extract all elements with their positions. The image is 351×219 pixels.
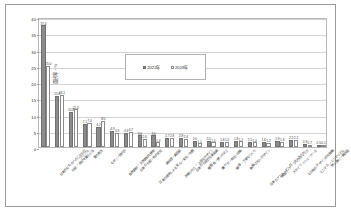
bar-2022: 4.9 [110,131,114,147]
bar-value-label: 11.6 [73,107,79,110]
bar-2019: 1.4 [156,142,160,147]
bar-2022: 0.9 [303,144,307,147]
bar-group: 4.44.7 [122,19,136,147]
legend-item-2019: 2019年 [171,64,189,70]
bar-2019: 25.0 [46,66,50,147]
bar-value-label: 1.5 [248,139,252,142]
bar-2019: 8.0 [101,121,105,147]
bar-2022: 10.8 [69,112,73,147]
bar-2019: 1.4 [211,142,215,147]
bar-group: 1.61.5 [218,19,232,147]
bar-value-label: 2.8 [170,135,174,138]
bar-value-label: 25.0 [45,63,51,66]
bar-group: 10.811.6 [67,19,81,147]
bar-value-label: 4.4 [124,130,128,133]
y-axis-tick-label: 10 [31,114,36,119]
bar-value-label: 4.3 [115,130,119,133]
bar-value-label: 1.5 [225,139,229,142]
bar-value-label: 1.6 [220,139,224,142]
bar-2022: 15.8 [55,96,59,147]
y-axis-tick-label: 15 [31,98,36,103]
bar-value-label: 16.1 [59,92,65,95]
bar-value-label: 1.6 [280,139,284,142]
bar-value-label: 8.0 [101,118,105,121]
bar-value-label: 0.9 [303,141,307,144]
legend-item-2022: 2022年 [143,64,161,70]
bar-value-label: 1.1 [197,141,201,144]
bar-value-label: 2.7 [165,135,169,138]
bar-group: 1.81.7 [232,19,246,147]
bar-group: 7.17.4 [80,19,94,147]
y-axis-tick-label: 25 [31,65,36,70]
bar-2022: 0.5 [317,145,321,147]
bar-2019: 1.5 [225,142,229,147]
bar-2022: 1.6 [220,142,224,147]
bar-group: 2.01.4 [204,19,218,147]
bar-value-label: 1.4 [211,140,215,143]
bar-value-label: 4.7 [129,129,133,132]
bar-value-label: 2.0 [193,138,197,141]
bar-group: 1.91.6 [273,19,287,147]
bar-group: 4.94.3 [108,19,122,147]
bar-2022: 4.4 [124,133,128,147]
bar-2019: 2.4 [184,139,188,147]
bar-group: 3.62.6 [135,19,149,147]
legend-label-2019: 2019年 [175,64,188,70]
chart-legend: 2022年 2019年 [125,54,206,80]
bar-value-label: 0.7 [308,142,312,145]
bar-2022: 2.0 [207,141,211,148]
bar-2019: 2.8 [170,138,174,147]
bar-2022: 1.5 [248,142,252,147]
bar-value-label: 6.2 [96,124,100,127]
bar-2019: 2.2 [294,140,298,147]
bar-value-label: 2.2 [294,137,298,140]
bar-2019: 11.6 [74,109,78,147]
bar-2019: 1.6 [280,142,284,147]
bar-2022: 3.6 [138,135,142,147]
bar-2022: 2.2 [289,140,293,147]
bar-value-label: 4.9 [110,128,114,131]
bar-value-label: 3.6 [138,133,142,136]
bar-2019: 7.4 [87,123,91,147]
bar-2022: 3.6 [151,135,155,147]
bar-group: 1.61.2 [259,19,273,147]
y-axis-tick-label: 20 [31,82,36,87]
bar-2022: 6.2 [96,127,100,147]
bar-value-label: 1.6 [262,139,266,142]
plot-area: 選択率・% 0510152025303540 37.425.015.816.11… [38,18,327,148]
legend-label-2022: 2022年 [147,64,160,70]
bar-2022: 2.8 [179,138,183,147]
bar-value-label: 1.9 [275,138,279,141]
legend-swatch-2019 [171,66,174,69]
bar-group: 6.28.0 [94,19,108,147]
x-axis-label: 個性的・アーティスティック [280,149,310,179]
bar-value-label: 0.5 [317,142,321,145]
bar-group: 2.82.4 [177,19,191,147]
bar-value-label: 2.4 [184,136,188,139]
bar-2019: 4.7 [129,132,133,147]
bar-value-label: 7.4 [87,120,91,123]
y-axis-tick-label: 35 [31,33,36,38]
bar-value-label: 2.6 [142,136,146,139]
bar-2019: 1.1 [198,143,202,147]
bar-value-label: 2.0 [206,138,210,141]
bar-group: 0.90.7 [300,19,314,147]
bar-value-label: 2.8 [179,135,183,138]
bar-2019: 0.1 [321,145,325,147]
bar-group: 2.22.2 [287,19,301,147]
bar-2022: 2.7 [165,138,169,147]
bar-value-label: 1.7 [239,139,243,142]
bar-group: 3.61.4 [149,19,163,147]
bar-2019: 1.2 [266,143,270,147]
bar-group: 37.425.0 [39,19,53,147]
x-axis-category-labels: 日本的なものへのこだわり伝統・格式を重んじるシンプル落ち着きモダン・現代的自然素… [38,149,327,205]
bar-2019: 4.3 [115,133,119,147]
bar-group: 2.01.1 [190,19,204,147]
bar-2022: 2.0 [193,141,197,148]
bar-value-label: 1.8 [234,138,238,141]
y-axis-tick-label: 5 [34,130,36,135]
bar-2019: 16.1 [60,95,64,147]
bar-2019: 1.4 [253,142,257,147]
bar-value-label: 1.4 [253,140,257,143]
